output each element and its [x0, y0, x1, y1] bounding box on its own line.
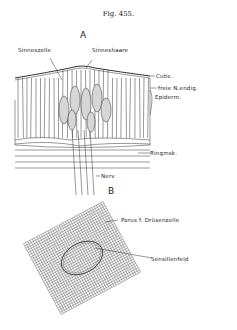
epidermis-line: [121, 78, 122, 138]
label-sinneszelle: Sinneszelle: [18, 47, 51, 53]
epidermis-line: [44, 78, 45, 138]
label-sensillenfeld: Sensillenfeld: [151, 256, 189, 262]
epidermis-line: [140, 78, 141, 138]
label-cuticula: Cutic.: [156, 73, 173, 79]
epidermis-line: [31, 78, 32, 138]
epidermis-line: [143, 78, 144, 138]
label-nerv: Nerv: [101, 173, 115, 179]
label-porus: Porus f. Drüsenzelle: [121, 217, 179, 223]
label-epidermis: Epiderm.: [155, 94, 181, 100]
epidermis-line: [23, 78, 24, 138]
epidermis-line: [116, 78, 117, 138]
label-sinneshaare: Sinneshaare: [92, 47, 128, 53]
epidermis-line: [130, 78, 131, 138]
epidermis-line: [148, 78, 149, 138]
label-ringmuskel: Ringmsk.: [150, 150, 177, 156]
panel-b-label: B: [108, 186, 114, 196]
label-freie-nervenendigung: freie N.endig.: [158, 85, 198, 91]
